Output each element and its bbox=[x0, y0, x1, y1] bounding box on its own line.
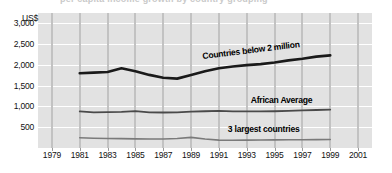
x-axis-tick-mark bbox=[163, 148, 164, 151]
x-axis-tick-mark bbox=[135, 148, 136, 151]
x-axis-tick-label: 1989 bbox=[182, 150, 200, 160]
y-axis-tick-label: 2,500 bbox=[0, 39, 34, 49]
x-axis-tick-mark bbox=[247, 148, 248, 151]
x-axis-tick-mark bbox=[302, 148, 303, 151]
x-axis-tick-label: 1993 bbox=[238, 150, 256, 160]
y-axis-tick-label: 2,000 bbox=[0, 60, 34, 70]
x-axis-tick-mark bbox=[275, 148, 276, 151]
x-axis-tick-label: 1999 bbox=[321, 150, 339, 160]
series-lines bbox=[38, 13, 372, 148]
x-axis-tick-mark bbox=[219, 148, 220, 151]
x-axis-tick-mark bbox=[358, 148, 359, 151]
x-axis-tick-label: 1995 bbox=[266, 150, 284, 160]
series-label-african-average: African Average bbox=[251, 95, 313, 105]
chart-container: per capita income growth by country grou… bbox=[0, 0, 392, 173]
x-axis-tick-mark bbox=[191, 148, 192, 151]
series-line bbox=[80, 110, 331, 113]
x-axis-tick-mark bbox=[330, 148, 331, 151]
x-axis-tick-label: 1985 bbox=[126, 150, 144, 160]
x-axis-tick-mark bbox=[52, 148, 53, 151]
x-axis-tick-label: 1979 bbox=[43, 150, 61, 160]
x-axis-tick-label: 2001 bbox=[349, 150, 367, 160]
x-axis-tick-label: 1991 bbox=[210, 150, 228, 160]
series-label-3-largest-countries: 3 largest countries bbox=[228, 124, 300, 134]
y-axis-tick-label: 500 bbox=[0, 122, 34, 132]
y-axis-tick-label: 3,000 bbox=[0, 18, 34, 28]
x-axis-tick-label: 1981 bbox=[71, 150, 89, 160]
x-axis-tick-mark bbox=[108, 148, 109, 151]
x-axis-tick-label: 1987 bbox=[154, 150, 172, 160]
series-line bbox=[80, 137, 331, 140]
x-axis-tick-mark bbox=[80, 148, 81, 151]
x-axis-tick-label: 1983 bbox=[99, 150, 117, 160]
y-axis-tick-label: 1,000 bbox=[0, 101, 34, 111]
x-axis-tick-label: 1997 bbox=[293, 150, 311, 160]
y-axis-tick-label: 1,500 bbox=[0, 81, 34, 91]
